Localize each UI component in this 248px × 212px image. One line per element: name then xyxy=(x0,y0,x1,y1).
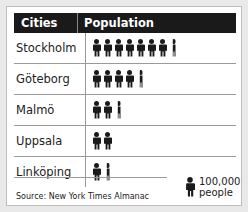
partial-person-icon xyxy=(114,101,123,119)
person-icon xyxy=(136,39,145,57)
person-icon xyxy=(114,39,123,57)
legend: 100,000 people xyxy=(185,176,240,198)
person-icon xyxy=(92,39,101,57)
legend-unit: people xyxy=(199,187,240,198)
person-icon xyxy=(125,39,134,57)
person-icon xyxy=(103,39,112,57)
population-icons xyxy=(85,33,236,63)
table-header: Cities Population xyxy=(14,13,236,33)
person-icon xyxy=(103,132,112,150)
city-name: Malmö xyxy=(14,103,85,117)
table-row: Göteborg xyxy=(14,64,236,95)
person-icon xyxy=(92,70,101,88)
table-row: Stockholm xyxy=(14,33,236,64)
partial-person-icon xyxy=(136,70,145,88)
person-icon xyxy=(147,39,156,57)
partial-person-icon xyxy=(169,39,178,57)
person-icon xyxy=(158,39,167,57)
partial-person-icon xyxy=(103,163,112,181)
person-icon xyxy=(114,70,123,88)
divider xyxy=(14,177,167,178)
population-icons xyxy=(85,64,236,94)
city-name: Stockholm xyxy=(14,41,85,55)
population-table: Cities Population Stockholm xyxy=(14,13,236,187)
source-note: Source: New York Times Almanac xyxy=(16,192,149,201)
population-icons xyxy=(85,126,236,156)
city-name: Uppsala xyxy=(14,134,85,148)
person-icon xyxy=(92,132,101,150)
table-row: Uppsala xyxy=(14,126,236,157)
person-icon xyxy=(92,163,101,181)
person-icon xyxy=(103,70,112,88)
table-row: Malmö xyxy=(14,95,236,126)
header-population: Population xyxy=(77,13,236,33)
person-icon xyxy=(103,101,112,119)
city-name: Göteborg xyxy=(14,72,85,86)
header-cities: Cities xyxy=(14,16,77,30)
population-icons xyxy=(85,95,236,125)
person-icon xyxy=(125,70,134,88)
person-icon xyxy=(92,101,101,119)
legend-value: 100,000 xyxy=(199,176,240,187)
pictograph-chart: Cities Population Stockholm xyxy=(6,6,242,206)
person-icon xyxy=(185,176,195,198)
